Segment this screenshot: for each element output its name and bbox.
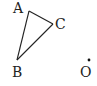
label-c: C: [55, 16, 66, 32]
label-a: A: [12, 0, 24, 16]
triangle-abc: [17, 11, 53, 60]
geometry-diagram: A B C O: [0, 0, 97, 86]
segment-bc: [17, 24, 53, 60]
segment-ac: [29, 11, 53, 24]
label-b: B: [12, 64, 22, 80]
segment-ab: [17, 11, 29, 60]
label-o: O: [80, 64, 91, 80]
point-o-dot: [88, 59, 91, 62]
